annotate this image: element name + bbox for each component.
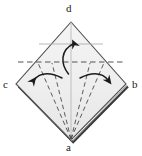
vertex-label-a: a [66, 142, 71, 153]
vertex-label-c: c [3, 79, 8, 90]
vertex-label-b: b [132, 79, 138, 90]
origami-diagram-svg [0, 0, 142, 156]
vertex-label-d: d [66, 3, 72, 14]
origami-figure: d a c b [0, 0, 142, 156]
